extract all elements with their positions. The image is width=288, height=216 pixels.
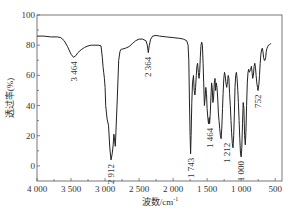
x-axis-title: 波数/cm-1 <box>142 196 179 207</box>
x-tick-label: 1 000 <box>231 184 252 194</box>
x-axis-title-main: 波数/cm <box>142 196 174 207</box>
y-tick-label: 40 <box>26 101 36 111</box>
plot-area-border <box>37 15 282 181</box>
y-tick-label: 60 <box>26 70 36 80</box>
plot-frame <box>37 15 282 181</box>
peak-label: 3 464 <box>69 61 79 82</box>
spectrum-line <box>37 35 271 159</box>
peak-label: 752 <box>253 95 263 109</box>
ir-spectrum-chart: 020406080100 4 0003 5003 0002 5002 0001 … <box>0 0 288 216</box>
x-tick-label: 2 000 <box>163 184 184 194</box>
x-tick-label: 500 <box>268 184 282 194</box>
x-tick-label: 1 500 <box>197 184 218 194</box>
y-tick-label: 100 <box>22 10 36 20</box>
peak-label: 1 000 <box>236 160 246 181</box>
y-tick-label: 20 <box>26 131 36 141</box>
peak-label: 1 212 <box>222 143 232 163</box>
x-axis-title-superscript: -1 <box>173 196 178 202</box>
x-tick-label: 2 500 <box>129 184 150 194</box>
peak-label: 1 743 <box>186 157 196 178</box>
x-tick-label: 4 000 <box>27 184 48 194</box>
x-tick-label: 3 000 <box>95 184 116 194</box>
y-tick-label: 0 <box>31 161 36 171</box>
y-axis-title: 透过率(%) <box>4 78 15 119</box>
peak-label: 2 912 <box>106 164 116 184</box>
peak-label: 1 464 <box>205 127 215 148</box>
y-tick-label: 80 <box>26 40 36 50</box>
x-tick-label: 3 500 <box>61 184 82 194</box>
peak-label: 2 364 <box>143 56 153 77</box>
